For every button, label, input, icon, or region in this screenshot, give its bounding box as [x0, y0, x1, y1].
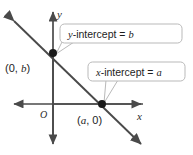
x-axis-label: x	[136, 110, 142, 122]
intercepts-diagram: y-intercept = b x-intercept = a (0, b) (…	[0, 0, 193, 155]
x-intercept-label-suffix: , 0)	[86, 114, 102, 126]
y-intercept-label-suffix: )	[26, 62, 30, 74]
y-intercept-label-prefix: (0,	[5, 62, 21, 74]
y-intercept-callout-var-b: b	[128, 29, 133, 40]
origin-label: O	[40, 109, 47, 120]
x-intercept-callout-middle: -intercept =	[101, 66, 157, 78]
y-intercept-point	[49, 49, 57, 57]
y-intercept-callout-label: y-intercept = b	[67, 28, 134, 40]
y-intercept-callout-middle: -intercept =	[73, 28, 129, 40]
x-intercept-leader	[104, 80, 118, 103]
x-intercept-point-label: (a, 0)	[77, 114, 102, 126]
y-intercept-point-label: (0, b)	[5, 62, 30, 74]
y-axis-label: y	[56, 8, 62, 20]
y-intercept-leader	[56, 42, 74, 54]
x-intercept-callout-var-a: a	[156, 67, 161, 78]
x-intercept-callout-label: x-intercept = a	[95, 66, 162, 78]
x-intercept-point	[98, 100, 106, 108]
